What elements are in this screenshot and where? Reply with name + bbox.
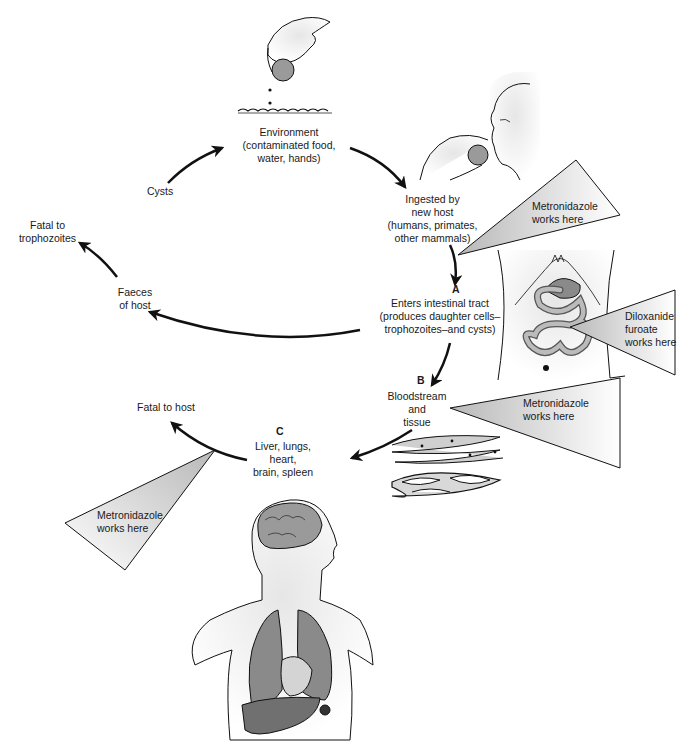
person-eating-illustration xyxy=(420,72,540,180)
label-organs: Liver, lungs, heart, brain, spleen xyxy=(249,440,317,479)
label-drug-metronidazole-organs: Metronidazole works here xyxy=(97,509,187,535)
label-drug-diloxanide: Diloxanide furoate works here xyxy=(625,310,689,349)
label-drug-metronidazole-ingest: Metronidazole works here xyxy=(532,200,622,226)
label-intestinal: Enters intestinal tract (produces daught… xyxy=(372,297,508,336)
letter-b: B xyxy=(417,374,425,386)
arrow-intestine-to-faeces xyxy=(150,312,360,337)
label-fatal-troph: Fatal to trophozoites xyxy=(10,219,85,245)
label-environment: Environment (contaminated food, water, h… xyxy=(234,126,344,165)
label-faeces: Faeces of host xyxy=(110,286,160,312)
letter-a: A xyxy=(452,283,460,295)
label-ingested: Ingested by new host (humans, primates, … xyxy=(385,193,480,245)
arrow-cysts-to-environment xyxy=(168,148,222,183)
human-organs-illustration xyxy=(192,500,373,740)
arrow-ingest-to-intestine xyxy=(450,245,456,284)
label-cysts: Cysts xyxy=(140,185,180,198)
arrow-faeces-to-fatal-troph xyxy=(80,243,117,277)
arrow-environment-to-ingest xyxy=(350,148,405,187)
tissue-illustration xyxy=(392,436,503,497)
hand-food-illustration xyxy=(238,18,332,114)
label-bloodstream: Bloodstream and tissue xyxy=(385,390,449,429)
diagram-canvas xyxy=(0,0,689,744)
letter-c: C xyxy=(276,425,284,437)
label-drug-metronidazole-blood: Metronidazole works here xyxy=(523,397,613,423)
label-fatal-host: Fatal to host xyxy=(121,401,211,414)
arrow-intestine-to-blood xyxy=(432,343,450,385)
